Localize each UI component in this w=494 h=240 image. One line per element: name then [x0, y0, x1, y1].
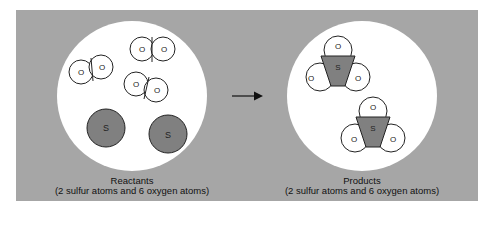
svg-text:O: O — [154, 86, 160, 95]
svg-text:O: O — [390, 135, 396, 144]
reactants-subtitle: (2 sulfur atoms and 6 oxygen atoms) — [22, 186, 242, 196]
reaction-arrow-icon — [232, 92, 263, 101]
svg-text:O: O — [355, 74, 361, 83]
svg-text:S: S — [335, 63, 340, 72]
svg-text:O: O — [161, 45, 167, 54]
sulfur-atom: S — [87, 109, 125, 147]
sulfur-atom: S — [149, 115, 187, 153]
svg-text:S: S — [370, 124, 375, 133]
svg-text:O: O — [308, 74, 314, 83]
svg-text:O: O — [139, 45, 145, 54]
svg-text:O: O — [133, 80, 139, 89]
products-subtitle: (2 sulfur atoms and 6 oxygen atoms) — [252, 186, 472, 196]
svg-text:O: O — [370, 103, 376, 112]
reactants-caption: Reactants (2 sulfur atoms and 6 oxygen a… — [22, 176, 242, 196]
svg-text:O: O — [335, 42, 341, 51]
svg-text:O: O — [351, 135, 357, 144]
svg-text:O: O — [78, 68, 84, 77]
svg-text:S: S — [165, 130, 171, 140]
oxygen-molecule: O O — [130, 37, 175, 62]
svg-text:S: S — [103, 123, 109, 133]
svg-text:O: O — [99, 63, 105, 72]
products-caption: Products (2 sulfur atoms and 6 oxygen at… — [252, 176, 472, 196]
